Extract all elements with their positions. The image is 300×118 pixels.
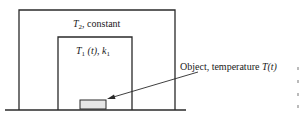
object-label: Object, temperature T(t): [180, 61, 278, 73]
cropped-edge-mark: [297, 105, 299, 108]
pointer-arrow-line: [110, 72, 198, 98]
inner-region-label: T1 (t), k1: [76, 45, 110, 58]
cropped-edge-marks: [297, 67, 299, 70]
cropped-edge-mark: [297, 93, 299, 96]
cropped-edge-mark: [297, 80, 299, 83]
heat-transfer-diagram: T2, constant T1 (t), k1 Object, temperat…: [0, 0, 300, 118]
outer-region-label: T2, constant: [73, 18, 121, 31]
object-block: [80, 100, 106, 109]
arrow-head-icon: [107, 95, 116, 100]
